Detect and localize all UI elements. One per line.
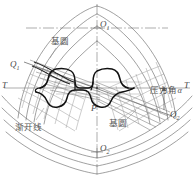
lower-arc-left-4 xyxy=(6,132,97,174)
o2-label: O2 xyxy=(100,144,110,155)
q2-label: Q2 xyxy=(170,110,180,121)
leader-base-circle-lower xyxy=(126,110,136,120)
leader-base-circle-upper xyxy=(50,48,56,58)
flank-left-upper xyxy=(35,88,40,92)
involute-label: 渐开线 xyxy=(15,123,43,132)
t-right-label: T xyxy=(184,81,189,90)
upper-arc-right-3 xyxy=(97,26,160,122)
left-mesh-v6 xyxy=(76,91,87,130)
q1-label: Q1 xyxy=(10,60,20,71)
gear-meshing-figure: O1 O2 Q1 Q2 T T P 基圆 基圆 渐开线 压力角α xyxy=(0,0,194,179)
pressure-angle-label: 压力角α xyxy=(150,86,182,95)
base-circle-upper-label: 基圆 xyxy=(51,37,69,46)
t-left-label: T xyxy=(2,81,7,90)
base-circle-lower-label: 基圆 xyxy=(109,119,127,128)
left-contact-path-2 xyxy=(34,62,74,82)
pitch-point-marker xyxy=(96,87,98,89)
left-mesh-u1 xyxy=(34,66,86,88)
left-mesh-v5 xyxy=(66,86,78,128)
pitch-point-label: P xyxy=(91,104,97,113)
lower-arc-right-4 xyxy=(97,132,188,174)
o1-label: O1 xyxy=(100,20,110,31)
